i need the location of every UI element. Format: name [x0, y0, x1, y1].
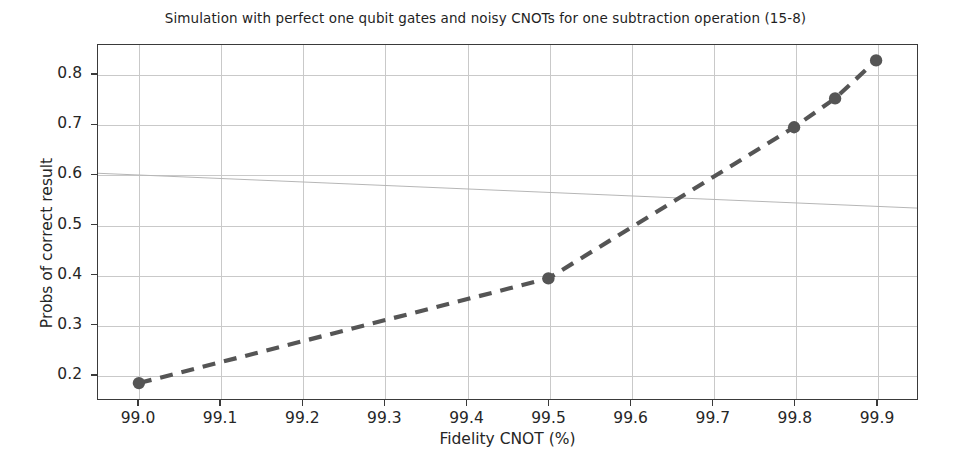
x-tick-mark [548, 400, 549, 406]
x-tick-mark [219, 400, 220, 406]
x-tick-label: 99.1 [180, 409, 260, 427]
data-point-marker [788, 121, 800, 133]
x-tick-label: 99.3 [344, 409, 424, 427]
x-tick-mark [137, 400, 138, 406]
x-tick-label: 99.6 [591, 409, 671, 427]
data-point-marker [133, 377, 145, 389]
x-tick-mark [876, 400, 877, 406]
chart-title: Simulation with perfect one qubit gates … [0, 10, 971, 26]
x-tick-mark [712, 400, 713, 406]
data-point-marker [542, 272, 554, 284]
x-tick-label: 99.0 [98, 409, 178, 427]
data-point-marker [870, 54, 882, 66]
x-axis-label: Fidelity CNOT (%) [97, 430, 918, 448]
x-tick-label: 99.7 [673, 409, 753, 427]
y-axis-label-holder: Probs of correct result [0, 44, 30, 400]
x-tick-label: 99.5 [509, 409, 589, 427]
x-tick-mark [466, 400, 467, 406]
x-tick-label: 99.2 [262, 409, 342, 427]
y-axis-label: Probs of correct result [38, 65, 56, 421]
x-tick-mark [630, 400, 631, 406]
x-tick-label: 99.9 [837, 409, 917, 427]
plot-area [97, 44, 918, 400]
data-series-line [98, 45, 917, 399]
x-tick-mark [302, 400, 303, 406]
x-tick-mark [384, 400, 385, 406]
figure-canvas: Simulation with perfect one qubit gates … [0, 0, 971, 468]
x-tick-mark [794, 400, 795, 406]
x-tick-label: 99.4 [427, 409, 507, 427]
data-point-marker [829, 92, 841, 104]
series-polyline [139, 60, 876, 383]
x-tick-label: 99.8 [755, 409, 835, 427]
